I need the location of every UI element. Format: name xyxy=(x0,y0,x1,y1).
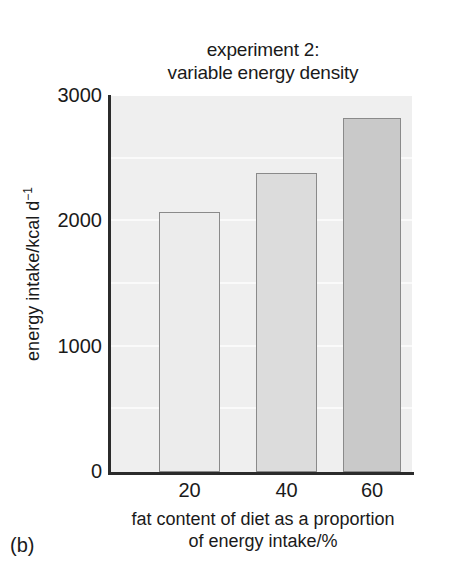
chart-title: experiment 2: variable energy density xyxy=(78,38,448,84)
y-axis-title: energy intake/kcal d−1 xyxy=(23,149,43,399)
x-axis-title-line-2: of energy intake/% xyxy=(73,530,453,552)
y-axis-title-exponent: −1 xyxy=(21,187,35,201)
figure-panel-b: experiment 2: variable energy density 0 … xyxy=(0,0,466,574)
y-axis-line xyxy=(108,95,111,474)
y-axis-tick-labels: 0 1000 2000 3000 xyxy=(0,0,102,574)
bar-60 xyxy=(343,118,401,472)
y-tick-label-1000: 1000 xyxy=(58,336,103,356)
chart-title-line-1: experiment 2: xyxy=(78,38,448,61)
x-axis-title-line-1: fat content of diet as a proportion xyxy=(73,508,453,530)
y-tick-label-2000: 2000 xyxy=(58,210,103,230)
y-tick-label-3000: 3000 xyxy=(58,85,103,105)
x-tick-label-60: 60 xyxy=(342,479,402,501)
bar-20 xyxy=(159,212,220,472)
bar-40 xyxy=(256,173,317,472)
y-tick-label-0: 0 xyxy=(91,461,102,481)
chart-title-line-2: variable energy density xyxy=(78,61,448,84)
x-axis-line xyxy=(108,472,414,475)
x-tick-label-40: 40 xyxy=(257,479,317,501)
x-tick-label-20: 20 xyxy=(160,479,220,501)
x-axis-title: fat content of diet as a proportion of e… xyxy=(73,508,453,552)
panel-label: (b) xyxy=(10,534,34,556)
plot-area xyxy=(110,96,412,472)
y-axis-title-text: energy intake/kcal d xyxy=(23,201,43,361)
